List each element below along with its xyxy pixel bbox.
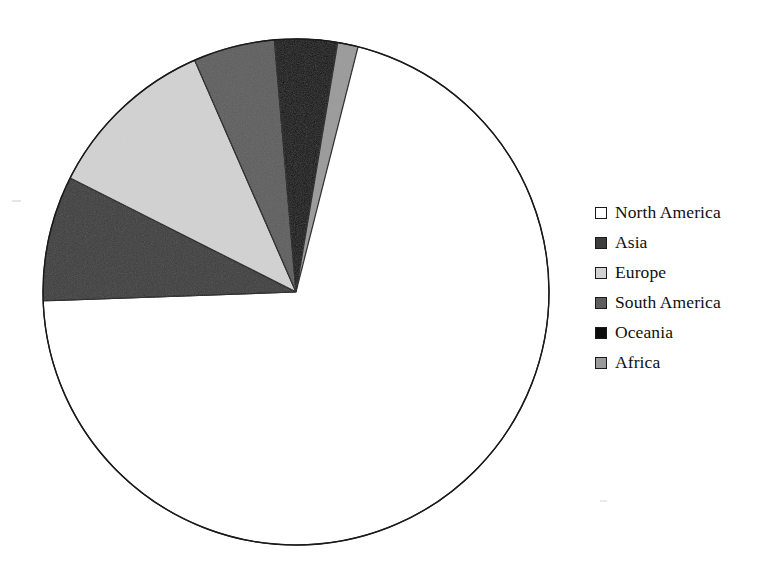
scan-speck bbox=[12, 200, 21, 202]
chart-legend: North America Asia Europe South America … bbox=[595, 198, 765, 378]
legend-item-europe[interactable]: Europe bbox=[595, 258, 765, 288]
legend-label-oceania: Oceania bbox=[615, 324, 673, 342]
legend-swatch-oceania bbox=[595, 327, 607, 339]
pie-chart-figure: North America Asia Europe South America … bbox=[0, 0, 769, 581]
legend-swatch-europe bbox=[595, 267, 607, 279]
legend-label-south-america: South America bbox=[615, 294, 721, 312]
legend-item-asia[interactable]: Asia bbox=[595, 228, 765, 258]
legend-item-oceania[interactable]: Oceania bbox=[595, 318, 765, 348]
legend-label-north-america: North America bbox=[615, 204, 721, 222]
legend-swatch-asia bbox=[595, 237, 607, 249]
legend-item-north-america[interactable]: North America bbox=[595, 198, 765, 228]
legend-label-europe: Europe bbox=[615, 264, 666, 282]
legend-swatch-africa bbox=[595, 357, 607, 369]
scan-speck bbox=[600, 500, 607, 502]
legend-item-africa[interactable]: Africa bbox=[595, 348, 765, 378]
legend-swatch-south-america bbox=[595, 297, 607, 309]
pie-slice-group bbox=[43, 39, 549, 545]
legend-label-africa: Africa bbox=[615, 354, 660, 372]
legend-item-south-america[interactable]: South America bbox=[595, 288, 765, 318]
legend-label-asia: Asia bbox=[615, 234, 647, 252]
legend-swatch-north-america bbox=[595, 207, 607, 219]
